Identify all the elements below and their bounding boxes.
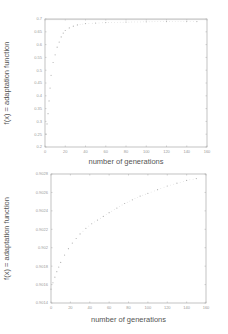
x-axis-title: number of generations [88, 157, 163, 166]
x-tick-label: 140 [183, 149, 190, 154]
x-tick-label: 80 [124, 149, 129, 154]
y-tick-label: 0.9024 [36, 208, 49, 213]
data-point [190, 21, 191, 22]
data-point [85, 228, 86, 229]
data-point [100, 218, 101, 219]
data-point [166, 21, 167, 22]
data-point [124, 203, 125, 204]
data-point [99, 23, 100, 24]
y-tick-label: 0.9028 [36, 171, 49, 176]
data-point [57, 47, 58, 48]
x-tick-label: 0 [44, 149, 47, 154]
y-tick-label: 0.35 [34, 106, 43, 111]
data-point [183, 21, 184, 22]
x-tick-label: 0 [50, 305, 53, 310]
x-axis-title: number of generations [91, 315, 166, 324]
data-point [129, 201, 130, 202]
data-point [68, 248, 69, 249]
data-point [163, 21, 164, 22]
x-tick-label: 20 [68, 305, 73, 310]
data-point [95, 22, 96, 23]
x-tick-label: 60 [107, 305, 112, 310]
data-point [103, 216, 104, 217]
x-tick-label: 20 [63, 149, 68, 154]
data-point [120, 22, 121, 23]
data-point [160, 188, 161, 189]
data-point [135, 198, 136, 199]
data-point [80, 24, 81, 25]
data-point [154, 190, 155, 191]
data-point [92, 23, 93, 24]
y-tick-label: 0.25 [34, 132, 43, 137]
data-point [175, 21, 176, 22]
data-point [111, 211, 112, 212]
data-point [186, 180, 187, 181]
data-point [109, 212, 110, 213]
data-point [85, 23, 86, 24]
x-tick-label: 160 [204, 149, 211, 154]
data-point [63, 32, 64, 33]
data-point [114, 22, 115, 23]
data-point [180, 182, 181, 183]
data-point [170, 185, 171, 186]
y-tick-label: 0.9022 [36, 227, 49, 232]
y-tick-label: 0.7 [36, 16, 42, 21]
data-point [56, 271, 57, 272]
data-point [189, 179, 190, 180]
y-tick-label: 0.55 [34, 55, 43, 60]
data-point [97, 219, 98, 220]
plot-frame [51, 174, 206, 303]
data-point [53, 62, 54, 63]
data-point [145, 194, 146, 195]
data-point [176, 183, 177, 184]
x-tick-label: 120 [164, 305, 171, 310]
y-tick-label: 0.9018 [36, 264, 49, 269]
data-point [116, 207, 117, 208]
data-point [140, 196, 141, 197]
data-point [119, 206, 120, 207]
x-tick-label: 40 [83, 149, 88, 154]
data-point [193, 179, 194, 180]
chart-top: 0204060801001201401600.20.250.30.350.40.… [2, 16, 211, 166]
x-tick-label: 100 [145, 305, 152, 310]
data-point [83, 231, 84, 232]
y-tick-label: 0.9026 [36, 190, 49, 195]
data-point [45, 134, 46, 135]
data-point [173, 184, 174, 185]
y-tick-label: 0.5 [36, 68, 42, 73]
data-point [134, 22, 135, 23]
y-tick-label: 0.2 [36, 144, 42, 149]
data-point [50, 75, 51, 76]
x-tick-label: 100 [143, 149, 150, 154]
y-tick-label: 0.6 [36, 42, 42, 47]
data-point [142, 195, 143, 196]
data-point [169, 21, 170, 22]
data-point [122, 205, 123, 206]
x-tick-label: 60 [104, 149, 109, 154]
data-point [172, 21, 173, 22]
data-point [76, 238, 77, 239]
data-point [160, 21, 161, 22]
data-point [196, 21, 197, 22]
data-point [132, 199, 133, 200]
data-point [157, 189, 158, 190]
data-point [94, 222, 95, 223]
x-tick-label: 160 [203, 305, 210, 310]
data-point [155, 21, 156, 22]
data-point [49, 88, 50, 89]
data-point [147, 193, 148, 194]
y-tick-label: 0.3 [36, 119, 42, 124]
data-point [64, 254, 65, 255]
data-point [114, 209, 115, 210]
data-point [52, 282, 53, 283]
data-point [50, 289, 51, 290]
data-point [72, 243, 73, 244]
data-point [111, 22, 112, 23]
data-point [77, 24, 78, 25]
data-point [123, 22, 124, 23]
data-point [55, 54, 56, 55]
data-point [82, 24, 83, 25]
data-point [137, 22, 138, 23]
data-point [157, 21, 158, 22]
chart-figure: 0204060801001201401600.20.250.30.350.40.… [0, 0, 228, 334]
